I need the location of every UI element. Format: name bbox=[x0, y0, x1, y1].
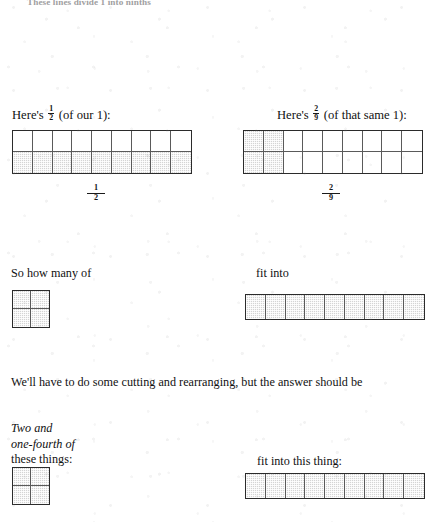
grid-cell bbox=[284, 152, 304, 173]
question-right-text: fit into bbox=[256, 267, 289, 279]
grid-cell bbox=[171, 131, 191, 152]
heading-prefix-half: Here's bbox=[12, 108, 44, 122]
grid-cell bbox=[343, 152, 363, 173]
grid-cell-shaded bbox=[264, 152, 284, 173]
answer-left-label-line-1: Two and bbox=[11, 421, 52, 435]
grid-cell bbox=[323, 152, 343, 173]
grid-cell-shaded bbox=[13, 468, 31, 486]
grid-cell-shaded bbox=[305, 474, 325, 498]
grid-cell-shaded bbox=[286, 474, 306, 498]
inline-fraction-two-ninths-denominator: 9 bbox=[313, 113, 319, 122]
answer-left-label-line-2: one-fourth of bbox=[11, 437, 75, 451]
question-left-text: So how many of bbox=[11, 267, 91, 279]
grid-cell bbox=[92, 131, 112, 152]
grid-cell-shaded bbox=[13, 486, 31, 504]
heading-here-is-one-half: Here's 1 2 (of our 1): bbox=[12, 106, 111, 123]
heading-suffix-half: (of our 1): bbox=[59, 108, 111, 122]
grid-cell-shaded bbox=[384, 295, 404, 319]
grid-cell-shaded bbox=[33, 152, 53, 173]
grid-cell bbox=[33, 131, 53, 152]
grid-cell bbox=[72, 131, 92, 152]
grid-cell-shaded bbox=[384, 474, 404, 498]
grid-cell-shaded bbox=[305, 295, 325, 319]
grid-cell-shaded bbox=[31, 468, 49, 486]
grid-cell-shaded bbox=[13, 152, 33, 173]
grid-cell-shaded bbox=[244, 152, 264, 173]
grid-cell bbox=[323, 131, 343, 152]
grid-cell-shaded bbox=[244, 131, 264, 152]
grid-cell bbox=[363, 131, 383, 152]
answer-intro-text: We'll have to do some cutting and rearra… bbox=[11, 376, 363, 388]
grid-cell bbox=[402, 152, 422, 173]
grid-cell-shaded bbox=[325, 474, 345, 498]
heading-prefix-two-ninths: Here's bbox=[277, 108, 309, 122]
grid-cell bbox=[13, 131, 33, 152]
grid-cell-shaded bbox=[53, 152, 73, 173]
grid-cell-shaded bbox=[13, 291, 31, 309]
grid-cell-shaded bbox=[345, 474, 365, 498]
two-ninths-unit-square bbox=[12, 290, 50, 328]
inline-fraction-two-ninths: 2 9 bbox=[313, 105, 319, 122]
fraction-label-one-half-denominator: 2 bbox=[87, 193, 105, 203]
grid-cell bbox=[132, 131, 152, 152]
one-half-whole-bar bbox=[245, 294, 425, 320]
inline-fraction-one-half-numerator: 1 bbox=[48, 105, 54, 113]
grid-cell bbox=[303, 152, 323, 173]
grid-cell bbox=[402, 131, 422, 152]
grid-cell-shaded bbox=[132, 152, 152, 173]
grid-cell-shaded bbox=[325, 295, 345, 319]
heading-suffix-two-ninths: (of that same 1): bbox=[324, 108, 407, 122]
grid-cell-shaded bbox=[112, 152, 132, 173]
grid-cell-shaded bbox=[404, 474, 424, 498]
grid-cell bbox=[382, 131, 402, 152]
grid-cell bbox=[151, 131, 171, 152]
grid-cell bbox=[343, 131, 363, 152]
grid-cell-shaded bbox=[72, 152, 92, 173]
two-ninths-of-one-grid bbox=[243, 130, 423, 174]
grid-cell-shaded bbox=[365, 474, 385, 498]
grid-cell-shaded bbox=[246, 295, 266, 319]
fraction-label-two-ninths-denominator: 9 bbox=[322, 193, 340, 203]
grid-cell-shaded bbox=[365, 295, 385, 319]
inline-fraction-one-half: 1 2 bbox=[48, 105, 54, 122]
grid-cell-shaded bbox=[151, 152, 171, 173]
one-half-of-one-grid bbox=[12, 130, 192, 174]
grid-cell-shaded bbox=[246, 474, 266, 498]
grid-cell-shaded bbox=[266, 474, 286, 498]
grid-cell bbox=[382, 152, 402, 173]
grid-cell bbox=[112, 131, 132, 152]
one-half-whole-bar-answer bbox=[245, 473, 425, 499]
grid-cell-shaded bbox=[404, 295, 424, 319]
grid-cell-shaded bbox=[266, 295, 286, 319]
grid-cell-shaded bbox=[345, 295, 365, 319]
inline-fraction-two-ninths-numerator: 2 bbox=[313, 105, 319, 113]
grid-cell-shaded bbox=[31, 291, 49, 309]
two-ninths-unit-square-answer bbox=[12, 467, 50, 505]
answer-left-label-line-3: these things: bbox=[11, 452, 72, 466]
fraction-label-two-ninths-numerator: 2 bbox=[322, 184, 340, 193]
grid-cell-shaded bbox=[286, 295, 306, 319]
grid-cell-shaded bbox=[13, 309, 31, 327]
page-top-cutoff-line: These lines divide 1 into ninths bbox=[27, 0, 151, 7]
grid-cell-shaded bbox=[92, 152, 112, 173]
fraction-label-two-ninths: 2 9 bbox=[322, 184, 340, 202]
heading-here-is-two-ninths: Here's 2 9 (of that same 1): bbox=[277, 106, 407, 123]
grid-cell-shaded bbox=[31, 486, 49, 504]
grid-cell bbox=[53, 131, 73, 152]
fraction-label-one-half: 1 2 bbox=[87, 184, 105, 202]
grid-cell bbox=[303, 131, 323, 152]
grid-cell bbox=[363, 152, 383, 173]
answer-left-label: Two and one-fourth of these things: bbox=[11, 421, 131, 468]
answer-right-label: fit into this thing: bbox=[257, 455, 342, 467]
grid-cell-shaded bbox=[264, 131, 284, 152]
inline-fraction-one-half-denominator: 2 bbox=[48, 113, 54, 122]
grid-cell-shaded bbox=[31, 309, 49, 327]
fraction-label-one-half-numerator: 1 bbox=[87, 184, 105, 193]
grid-cell-shaded bbox=[171, 152, 191, 173]
grid-cell bbox=[284, 131, 304, 152]
